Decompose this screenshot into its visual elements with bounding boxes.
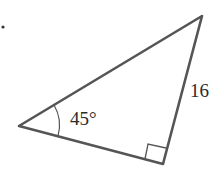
bullet-dot bbox=[1, 25, 4, 28]
triangle-diagram: 45° 16 bbox=[0, 0, 224, 174]
angle-label: 45° bbox=[70, 108, 97, 129]
triangle-outline bbox=[19, 16, 202, 164]
side-length-label: 16 bbox=[190, 80, 209, 101]
angle-arc bbox=[54, 105, 59, 136]
right-angle-marker bbox=[145, 144, 166, 159]
